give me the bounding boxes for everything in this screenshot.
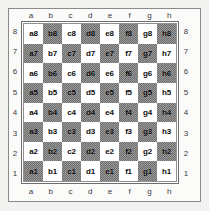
- board-square-b2[interactable]: b2: [43, 142, 62, 162]
- board-square-b6[interactable]: b6: [43, 63, 62, 83]
- board-square-d4[interactable]: d4: [81, 103, 100, 123]
- rank-label-7-right: 7: [180, 41, 192, 61]
- board-square-c5[interactable]: c5: [62, 83, 81, 103]
- board-square-a2[interactable]: a2: [24, 142, 43, 162]
- board-square-f5[interactable]: f5: [119, 83, 138, 103]
- board-square-a1[interactable]: a1: [24, 161, 43, 181]
- square-label: e6: [105, 69, 114, 78]
- board-square-f6[interactable]: f6: [119, 63, 138, 83]
- square-label: b1: [48, 167, 57, 176]
- board-square-c3[interactable]: c3: [62, 122, 81, 142]
- board-square-d1[interactable]: d1: [81, 161, 100, 181]
- square-label: f3: [125, 127, 132, 136]
- board-square-a6[interactable]: a6: [24, 63, 43, 83]
- board-square-b3[interactable]: b3: [43, 122, 62, 142]
- board-square-e5[interactable]: e5: [100, 83, 119, 103]
- board-square-a5[interactable]: a5: [24, 83, 43, 103]
- square-label: d8: [86, 29, 95, 38]
- square-label: f7: [125, 49, 132, 58]
- board-square-c7[interactable]: c7: [62, 44, 81, 64]
- square-label: g8: [143, 29, 152, 38]
- board-square-h2[interactable]: h2: [157, 142, 176, 162]
- rank-label-1-left: 1: [9, 164, 21, 184]
- square-label: a2: [29, 147, 38, 156]
- board-square-e7[interactable]: e7: [100, 44, 119, 64]
- board-square-d8[interactable]: d8: [81, 24, 100, 44]
- file-label-e-bottom: e: [100, 185, 120, 198]
- board-square-c1[interactable]: c1: [62, 161, 81, 181]
- board-square-e1[interactable]: e1: [100, 161, 119, 181]
- square-label: d4: [86, 108, 95, 117]
- board-square-e8[interactable]: e8: [100, 24, 119, 44]
- square-label: e3: [105, 127, 114, 136]
- board-square-d7[interactable]: d7: [81, 44, 100, 64]
- square-label: a8: [29, 29, 38, 38]
- board-square-g7[interactable]: g7: [138, 44, 157, 64]
- board-square-g8[interactable]: g8: [138, 24, 157, 44]
- square-label: b8: [48, 29, 57, 38]
- board-square-f3[interactable]: f3: [119, 122, 138, 142]
- board-square-a3[interactable]: a3: [24, 122, 43, 142]
- board-square-h1[interactable]: h1: [157, 161, 176, 181]
- board-square-b7[interactable]: b7: [43, 44, 62, 64]
- board-square-g5[interactable]: g5: [138, 83, 157, 103]
- square-label: a3: [29, 127, 38, 136]
- board-square-g3[interactable]: g3: [138, 122, 157, 142]
- board-square-c2[interactable]: c2: [62, 142, 81, 162]
- square-label: e4: [105, 108, 114, 117]
- square-label: e1: [105, 167, 114, 176]
- board-square-b8[interactable]: b8: [43, 24, 62, 44]
- board-square-e4[interactable]: e4: [100, 103, 119, 123]
- rank-label-4-left: 4: [9, 103, 21, 123]
- board-square-a7[interactable]: a7: [24, 44, 43, 64]
- square-label: b3: [48, 127, 57, 136]
- chess-coordinate-diagram: abcdefgh 87654321 a8b8c8d8e8f8g8h8a7b7c7…: [0, 0, 209, 211]
- board-square-h8[interactable]: h8: [157, 24, 176, 44]
- board-square-b1[interactable]: b1: [43, 161, 62, 181]
- rank-label-3-right: 3: [180, 123, 192, 143]
- board-square-f8[interactable]: f8: [119, 24, 138, 44]
- board-square-d3[interactable]: d3: [81, 122, 100, 142]
- board-square-c8[interactable]: c8: [62, 24, 81, 44]
- board-square-g2[interactable]: g2: [138, 142, 157, 162]
- board-square-c4[interactable]: c4: [62, 103, 81, 123]
- board-square-a4[interactable]: a4: [24, 103, 43, 123]
- square-label: d5: [86, 88, 95, 97]
- square-label: h2: [162, 147, 171, 156]
- square-label: f1: [125, 167, 132, 176]
- board-square-h3[interactable]: h3: [157, 122, 176, 142]
- square-label: c1: [67, 167, 76, 176]
- rank-label-2-right: 2: [180, 143, 192, 163]
- board-square-e3[interactable]: e3: [100, 122, 119, 142]
- board-square-b4[interactable]: b4: [43, 103, 62, 123]
- square-label: b7: [48, 49, 57, 58]
- board-square-d2[interactable]: d2: [81, 142, 100, 162]
- board-square-h5[interactable]: h5: [157, 83, 176, 103]
- board-square-c6[interactable]: c6: [62, 63, 81, 83]
- board-square-g1[interactable]: g1: [138, 161, 157, 181]
- board-frame: a8b8c8d8e8f8g8h8a7b7c7d7e7f7g7h7a6b6c6d6…: [21, 21, 179, 184]
- board-square-b5[interactable]: b5: [43, 83, 62, 103]
- rank-label-7-left: 7: [9, 41, 21, 61]
- board-square-f7[interactable]: f7: [119, 44, 138, 64]
- board-square-g4[interactable]: g4: [138, 103, 157, 123]
- board-square-h4[interactable]: h4: [157, 103, 176, 123]
- board-square-f4[interactable]: f4: [119, 103, 138, 123]
- board-square-h6[interactable]: h6: [157, 63, 176, 83]
- board-square-e2[interactable]: e2: [100, 142, 119, 162]
- file-label-c-bottom: c: [61, 185, 81, 198]
- board-square-e6[interactable]: e6: [100, 63, 119, 83]
- board-square-f2[interactable]: f2: [119, 142, 138, 162]
- square-label: a1: [29, 167, 38, 176]
- square-label: a7: [29, 49, 38, 58]
- board-square-d6[interactable]: d6: [81, 63, 100, 83]
- board-square-h7[interactable]: h7: [157, 44, 176, 64]
- square-label: a4: [29, 108, 38, 117]
- square-label: g4: [143, 108, 152, 117]
- board-square-d5[interactable]: d5: [81, 83, 100, 103]
- square-label: h3: [162, 127, 171, 136]
- square-label: a6: [29, 69, 38, 78]
- board-square-g6[interactable]: g6: [138, 63, 157, 83]
- board-square-f1[interactable]: f1: [119, 161, 138, 181]
- board-square-a8[interactable]: a8: [24, 24, 43, 44]
